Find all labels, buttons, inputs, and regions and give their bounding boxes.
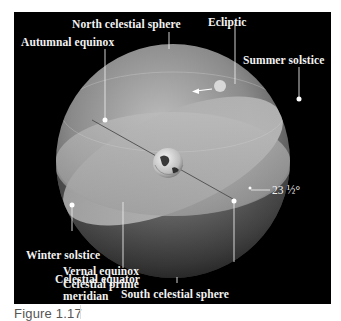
winter-solstice-marker: [70, 203, 75, 208]
sun-disk: [214, 80, 226, 92]
label-autumnal-equinox: Autumnal equinox: [21, 36, 114, 48]
figure-caption: Figure 1.17: [14, 306, 82, 321]
label-vernal-equinox: Vernal equinox Celestial prime meridian: [63, 265, 139, 303]
vernal-equinox-marker: [232, 199, 237, 204]
tilt-marker: [249, 187, 252, 190]
diagram-panel: North celestial sphere Ecliptic Autumnal…: [14, 12, 331, 304]
label-north-celestial-sphere: North celestial sphere: [72, 18, 181, 30]
label-tilt-angle: 23 ½°: [272, 184, 300, 196]
earth-globe: [153, 148, 183, 178]
autumnal-equinox-marker: [103, 118, 108, 123]
label-summer-solstice: Summer solstice: [243, 54, 324, 66]
label-winter-solstice: Winter solstice: [26, 249, 100, 261]
summer-solstice-marker: [297, 97, 302, 102]
label-ecliptic: Ecliptic: [208, 16, 247, 28]
caption-divider: [80, 305, 81, 319]
